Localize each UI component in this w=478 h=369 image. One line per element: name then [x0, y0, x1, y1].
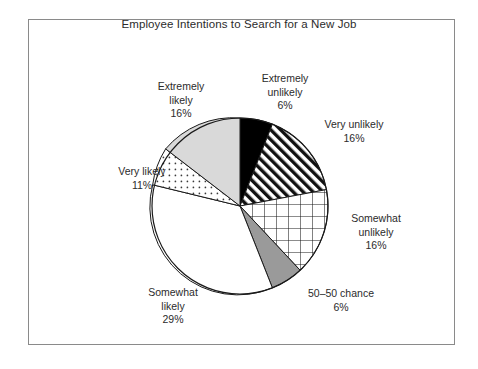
chart-title: Employee Intentions to Search for a New …	[0, 18, 478, 30]
pie-label-line2: likely	[128, 94, 234, 108]
pie-label-percent: 16%	[330, 239, 422, 253]
pie-label-line1: Somewhat	[120, 286, 226, 300]
pie-label-5050-chance: 50–50 chance 6%	[288, 287, 394, 314]
pie-label-line1: Extremely	[232, 72, 338, 86]
pie-label-somewhat-unlikely: Somewhat unlikely 16%	[330, 212, 422, 253]
pie-label-extremely-unlikely: Extremely unlikely 6%	[232, 72, 338, 113]
pie-label-line1: 50–50 chance	[288, 287, 394, 301]
pie-label-line1: Very likely	[92, 165, 192, 179]
pie-label-line1: Extremely	[128, 80, 234, 94]
pie-label-somewhat-likely: Somewhat likely 29%	[120, 286, 226, 327]
pie-label-percent: 6%	[288, 301, 394, 315]
pie-label-very-likely: Very likely 11%	[92, 165, 192, 192]
pie-label-very-unlikely: Very unlikely 16%	[300, 118, 408, 145]
pie-label-percent: 29%	[120, 313, 226, 327]
pie-label-percent: 16%	[300, 132, 408, 146]
pie-label-percent: 11%	[92, 179, 192, 193]
pie-label-line2: likely	[120, 300, 226, 314]
pie-label-line2: unlikely	[330, 226, 422, 240]
pie-label-line1: Somewhat	[330, 212, 422, 226]
pie-label-percent: 16%	[128, 107, 234, 121]
pie-label-percent: 6%	[232, 99, 338, 113]
pie-label-line1: Very unlikely	[300, 118, 408, 132]
pie-label-line2: unlikely	[232, 86, 338, 100]
pie-label-extremely-likely: Extremely likely 16%	[128, 80, 234, 121]
